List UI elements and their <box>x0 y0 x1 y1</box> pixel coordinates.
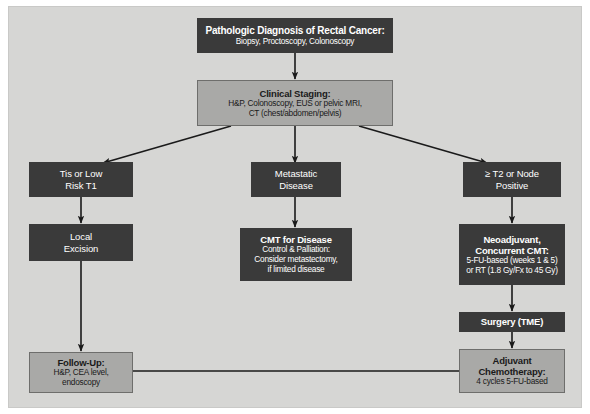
node-pathologic-diagnosis-title: Pathologic Diagnosis of Rectal Cancer: <box>205 25 384 37</box>
diagram-canvas: Pathologic Diagnosis of Rectal Cancer: B… <box>0 0 590 414</box>
node-t2-or-node-positive-line2: Positive <box>496 180 528 191</box>
node-t2-or-node-positive-line1: ≥ T2 or Node <box>485 168 539 179</box>
node-follow-up[interactable]: Follow-Up: H&P, CEA level, endoscopy <box>29 352 133 393</box>
node-clinical-staging-sub2: CT (chest/abdomen/pelvis) <box>249 109 342 119</box>
node-tis-low-risk-t1-line2: Risk T1 <box>65 180 96 191</box>
diagram-panel <box>8 6 582 408</box>
node-pathologic-diagnosis-sub1: Biopsy, Proctoscopy, Colonoscopy <box>236 37 355 47</box>
node-follow-up-sub2: endoscopy <box>62 378 100 388</box>
node-neoadjuvant-concurrent-cmt-sub2: or RT (1.8 Gy/Fx to 45 Gy) <box>466 266 557 276</box>
node-local-excision[interactable]: Local Excision <box>29 224 133 261</box>
node-surgery-tme-title: Surgery (TME) <box>481 316 543 327</box>
node-local-excision-line1: Local <box>70 231 92 242</box>
node-pathologic-diagnosis[interactable]: Pathologic Diagnosis of Rectal Cancer: B… <box>197 18 393 53</box>
node-tis-low-risk-t1-line1: Tis or Low <box>60 168 102 179</box>
node-local-excision-line2: Excision <box>64 243 99 254</box>
node-cmt-for-disease-sub3: if limited disease <box>268 265 325 275</box>
node-metastatic-disease[interactable]: Metastatic Disease <box>251 162 341 197</box>
node-t2-or-node-positive[interactable]: ≥ T2 or Node Positive <box>463 162 561 197</box>
node-adjuvant-chemotherapy[interactable]: Adjuvant Chemotherapy: 4 cycles 5-FU-bas… <box>459 349 565 393</box>
node-clinical-staging[interactable]: Clinical Staging: H&P, Colonoscopy, EUS … <box>197 80 393 126</box>
node-metastatic-disease-line1: Metastatic <box>275 168 317 179</box>
node-metastatic-disease-line2: Disease <box>279 180 313 191</box>
node-surgery-tme[interactable]: Surgery (TME) <box>459 312 565 332</box>
node-adjuvant-chemotherapy-sub1: 4 cycles 5-FU-based <box>476 377 547 387</box>
node-cmt-for-disease[interactable]: CMT for Disease Control & Palliation: Co… <box>240 228 352 281</box>
node-tis-low-risk-t1[interactable]: Tis or Low Risk T1 <box>29 162 133 197</box>
node-neoadjuvant-concurrent-cmt[interactable]: Neoadjuvant, Concurrent CMT: 5-FU-based … <box>459 224 565 285</box>
node-adjuvant-chemotherapy-title1: Adjuvant <box>492 355 531 366</box>
node-neoadjuvant-concurrent-cmt-title1: Neoadjuvant, <box>483 234 540 245</box>
